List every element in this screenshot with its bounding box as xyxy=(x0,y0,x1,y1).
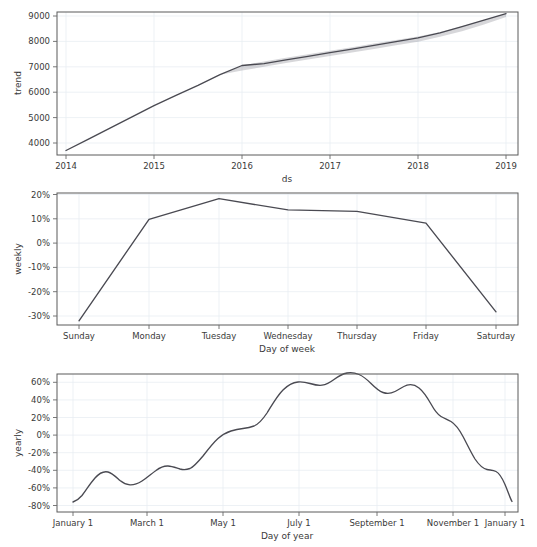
yearly-y-ticks: 60% 40% 20% 0% -20% -40% -60% -80% xyxy=(28,377,57,510)
prophet-components-figure: 4000 5000 6000 7000 8000 9000 2014 20 xyxy=(0,0,537,547)
yearly-xtick-1: March 1 xyxy=(130,518,164,528)
yearly-xaxis-label: Day of year xyxy=(261,531,314,541)
yearly-line xyxy=(73,373,512,502)
trend-y-ticks: 4000 5000 6000 7000 8000 9000 xyxy=(28,11,57,148)
weekly-xtick-0: Sunday xyxy=(63,331,95,341)
trend-ytick-4: 8000 xyxy=(28,36,50,46)
trend-xaxis-label: ds xyxy=(282,174,293,184)
weekly-plot-area: 20% 10% 0% -10% -20% -30% Sunday Mo xyxy=(13,190,518,355)
yearly-ytick-6: -60% xyxy=(28,483,50,493)
trend-ytick-5: 9000 xyxy=(28,11,50,21)
weekly-ytick-1: 10% xyxy=(31,214,50,224)
yearly-ytick-0: 60% xyxy=(31,377,50,387)
weekly-line xyxy=(79,199,496,321)
weekly-chart: 20% 10% 0% -10% -20% -30% Sunday Mo xyxy=(0,185,537,360)
yearly-ytick-1: 40% xyxy=(31,395,50,405)
weekly-xtick-5: Friday xyxy=(413,331,439,341)
weekly-xaxis-label: Day of week xyxy=(259,344,316,354)
trend-x-ticks: 2014 2015 2016 2017 2018 2019 xyxy=(55,155,517,171)
trend-plot-area: 4000 5000 6000 7000 8000 9000 2014 20 xyxy=(13,11,518,184)
yearly-xtick-2: May 1 xyxy=(210,518,236,528)
weekly-ytick-4: -20% xyxy=(28,287,50,297)
trend-yaxis-label: trend xyxy=(13,71,23,95)
weekly-xtick-4: Thursday xyxy=(336,331,377,341)
yearly-ytick-7: -80% xyxy=(28,501,50,511)
yearly-chart: 60% 40% 20% 0% -20% -40% -60% -80% xyxy=(0,360,537,547)
yearly-plot-area: 60% 40% 20% 0% -20% -40% -60% -80% xyxy=(13,373,525,541)
trend-uncertainty-band xyxy=(66,14,506,151)
trend-ytick-0: 4000 xyxy=(28,138,50,148)
trend-xtick-1: 2015 xyxy=(143,161,165,171)
trend-chart: 4000 5000 6000 7000 8000 9000 2014 20 xyxy=(0,0,537,185)
yearly-gridlines xyxy=(57,374,518,512)
yearly-xtick-4: September 1 xyxy=(349,518,404,528)
yearly-x-ticks: January 1 March 1 May 1 July 1 September… xyxy=(52,512,525,528)
weekly-ytick-2: 0% xyxy=(37,238,51,248)
yearly-ytick-4: -20% xyxy=(28,448,50,458)
yearly-panel: 60% 40% 20% 0% -20% -40% -60% -80% xyxy=(0,360,537,547)
trend-xtick-3: 2017 xyxy=(319,161,341,171)
trend-ytick-2: 6000 xyxy=(28,87,50,97)
weekly-xtick-6: Saturday xyxy=(477,331,515,341)
yearly-yaxis-label: yearly xyxy=(13,428,23,457)
trend-xtick-0: 2014 xyxy=(55,161,77,171)
trend-panel: 4000 5000 6000 7000 8000 9000 2014 20 xyxy=(0,0,537,185)
trend-xtick-5: 2019 xyxy=(495,161,517,171)
trend-ytick-3: 7000 xyxy=(28,62,50,72)
weekly-ytick-3: -10% xyxy=(28,262,50,272)
weekly-gridlines xyxy=(57,193,518,325)
yearly-xtick-5: November 1 xyxy=(427,518,479,528)
weekly-panel: 20% 10% 0% -10% -20% -30% Sunday Mo xyxy=(0,185,537,360)
trend-xtick-2: 2016 xyxy=(231,161,253,171)
trend-xtick-4: 2018 xyxy=(407,161,429,171)
weekly-axes-frame xyxy=(57,193,518,325)
yearly-xtick-6: January 1 xyxy=(484,518,525,528)
weekly-x-ticks: Sunday Monday Tuesday Wednesday Thursday… xyxy=(63,325,515,341)
weekly-xtick-2: Tuesday xyxy=(201,331,237,341)
yearly-xtick-3: July 1 xyxy=(286,518,310,528)
trend-ytick-1: 5000 xyxy=(28,113,50,123)
weekly-ytick-0: 20% xyxy=(31,190,50,200)
yearly-ytick-3: 0% xyxy=(37,430,51,440)
weekly-yaxis-label: weekly xyxy=(13,243,23,275)
yearly-axes-frame xyxy=(57,374,518,512)
weekly-ytick-5: -30% xyxy=(28,311,50,321)
yearly-xtick-0: January 1 xyxy=(52,518,93,528)
weekly-xtick-3: Wednesday xyxy=(263,331,312,341)
weekly-xtick-1: Monday xyxy=(132,331,166,341)
yearly-ytick-5: -40% xyxy=(28,465,50,475)
yearly-ytick-2: 20% xyxy=(31,413,50,423)
weekly-y-ticks: 20% 10% 0% -10% -20% -30% xyxy=(28,190,57,322)
